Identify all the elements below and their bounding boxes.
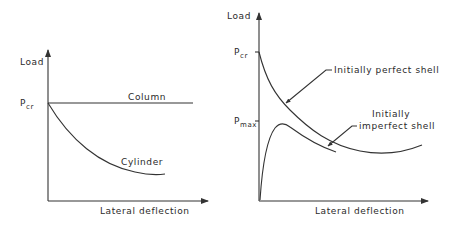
left-pcr-label: Pcr — [20, 98, 34, 111]
diagram-canvas: Load Lateral deflection Pcr Column Cylin… — [0, 0, 451, 225]
cylinder-label: Cylinder — [121, 157, 163, 167]
right-pcr-label: Pcr — [234, 47, 248, 60]
imperfect-shell-curve — [260, 124, 336, 200]
left-y-axis-label: Load — [20, 57, 44, 67]
left-x-axis-label: Lateral deflection — [100, 206, 190, 216]
right-x-axis-label: Lateral deflection — [315, 206, 405, 216]
left-chart: Load Lateral deflection Pcr Column Cylin… — [20, 50, 208, 216]
perfect-shell-leader — [286, 70, 332, 103]
imperfect-shell-label-line2: imperfect shell — [359, 121, 435, 131]
right-pmax-label: Pmax — [234, 116, 257, 129]
right-chart: Load Lateral deflection Pcr Pmax Initial… — [227, 11, 439, 216]
right-y-axis-label: Load — [227, 11, 251, 21]
imperfect-shell-label-line1: Initially — [372, 109, 410, 119]
column-label: Column — [128, 92, 166, 102]
perfect-shell-label: Initially perfect shell — [334, 65, 439, 75]
imperfect-shell-leader — [328, 126, 357, 146]
